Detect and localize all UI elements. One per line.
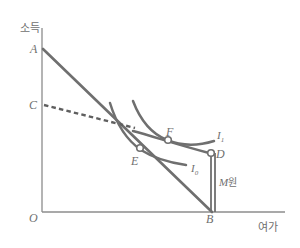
point-label-A: A xyxy=(30,43,37,55)
point-label-C: C xyxy=(29,99,37,111)
point-label-B: B xyxy=(206,213,213,225)
budget-line-AB xyxy=(43,49,212,212)
bracket-label-M-won: M원 xyxy=(219,177,237,188)
point-marker-E xyxy=(137,145,144,152)
indifference-curve-I1 xyxy=(133,101,214,145)
point-label-F: F xyxy=(166,126,173,138)
origin-label: O xyxy=(29,212,38,224)
point-marker-D xyxy=(208,150,215,157)
bracket-label-won-unit: 원 xyxy=(228,177,237,188)
point-label-E: E xyxy=(131,155,138,167)
y-axis-label: 소득 xyxy=(20,23,40,34)
diagram-svg xyxy=(0,0,300,248)
bracket-label-M: M xyxy=(219,176,228,188)
axes-group xyxy=(42,28,285,212)
curve-label-I1: I1 xyxy=(217,130,224,144)
curve-label-I0-subscript: 0 xyxy=(195,169,199,177)
x-axis-label: 여가 xyxy=(258,222,278,233)
curve-label-I1-subscript: 1 xyxy=(221,136,225,144)
figure-canvas: 소득 여가 O A C E F D B I0 I1 M원 xyxy=(0,0,300,248)
point-label-D: D xyxy=(216,148,225,160)
transfer-bracket-M xyxy=(211,153,215,212)
dashed-line-C xyxy=(44,105,135,128)
curve-label-I0: I0 xyxy=(191,163,198,177)
